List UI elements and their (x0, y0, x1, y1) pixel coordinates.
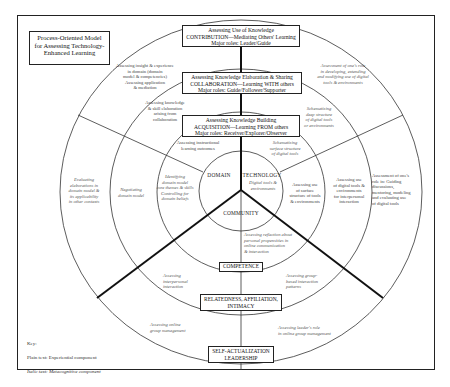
community-middle-meta-text: Assessing group- based interaction patte… (286, 273, 330, 290)
technology-middle-text: Assessing use of digital tools & environ… (328, 177, 370, 205)
domain-inner-meta-text: Identifying domain model core themes & s… (152, 174, 198, 202)
technology-inner-meta-text: Schematizing surface structure of digita… (262, 140, 308, 157)
self-actualization-box: SELF-ACTUALIZATION LEADERSHIP (208, 346, 274, 363)
domain-inner-text: Assessing instructional learning outcome… (166, 140, 230, 151)
legend-plain: Plain text: Experiential component (27, 354, 101, 361)
diagram-title: Process-Oriented Model for Assessing Tec… (29, 31, 110, 65)
technology-middle-meta-text: Schematizing deep structure of digital t… (296, 106, 342, 128)
community-label: COMMUNITY (218, 210, 264, 216)
community-outer-meta-text: Assessing leader's role in online group … (278, 325, 344, 336)
domain-label: DOMAIN (201, 172, 237, 178)
legend-key: Key: Plain text: Experiential component … (27, 333, 101, 382)
community-inner-meta-text: Assessing reflection about personal prop… (244, 232, 300, 254)
competence-box: COMPETENCE (219, 262, 263, 272)
technology-outer-meta-text: Assessment of one's role in developing, … (305, 63, 381, 85)
domain-outer-text: Assessing insight & experience in domain… (95, 63, 195, 91)
community-outer-text: Assessing online group management (150, 322, 204, 333)
collaboration-box: Assessing Knowledge Elaboration & Sharin… (182, 72, 302, 94)
technology-sub-label: Digital tools & environments (244, 180, 282, 191)
relatedness-box: RELATEDNESS, AFFILIATION, INTIMACY (200, 294, 282, 311)
technology-outer-text: Assessment of one's role in: Guiding dis… (372, 173, 422, 207)
legend-heading: Key: (27, 340, 101, 347)
technology-label: TECHNOLOGY (242, 172, 282, 178)
domain-outer-meta-text: Evaluating elaborations in domain model … (62, 177, 106, 205)
legend-italic: Italic text: Metacognitive component (27, 368, 101, 375)
domain-middle-text: Assessing knowledge & skill elaboration … (132, 100, 198, 122)
community-middle-text: Assessing interpersonal interaction (163, 273, 203, 290)
contribution-box: Assessing Use of Knowledge CONTRIBUTION—… (182, 25, 300, 47)
technology-inner-text: Assessing use of surface structure of to… (282, 182, 328, 204)
acquisition-box: Assessing Knowledge Building ACQUISITION… (182, 115, 300, 137)
domain-middle-meta-text: Negotiating domain model (111, 187, 151, 198)
